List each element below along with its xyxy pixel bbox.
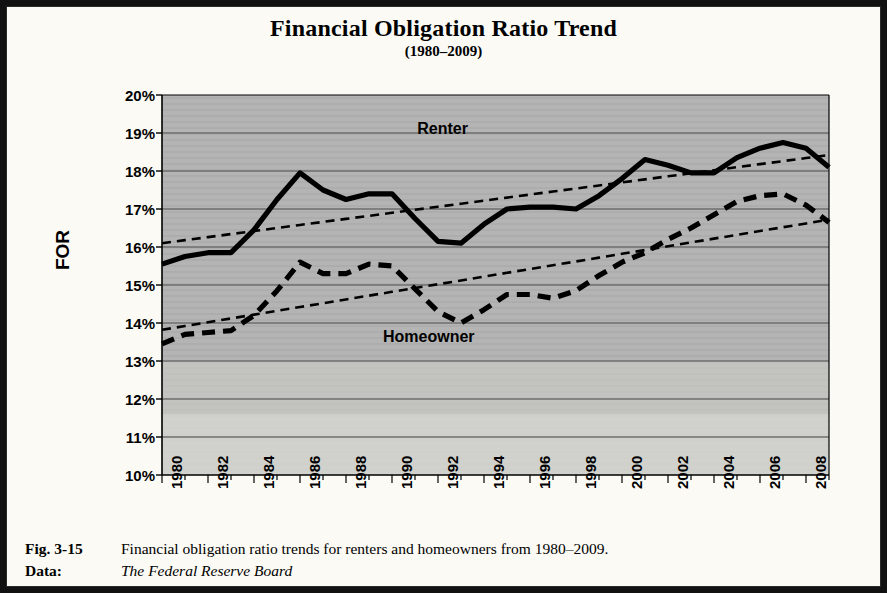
series-label-renter: Renter xyxy=(417,120,468,138)
x-axis-tick-label: 2006 xyxy=(766,456,783,489)
x-axis-tick-label: 2000 xyxy=(628,456,645,489)
caption-figure-text: Financial obligation ratio trends for re… xyxy=(121,538,862,560)
x-axis-tick-label: 2002 xyxy=(674,456,691,489)
x-axis-tick-label: 1982 xyxy=(214,456,231,489)
chart-plot-area: FOR 20%19%18%17%16%15%14%13%12%11%10% 19… xyxy=(7,7,881,547)
x-axis-tick-label: 2008 xyxy=(812,456,829,489)
figure-frame: Financial Obligation Ratio Trend (1980–2… xyxy=(0,0,887,593)
caption-figure-row: Fig. 3-15 Financial obligation ratio tre… xyxy=(25,538,862,560)
figure-caption: Fig. 3-15 Financial obligation ratio tre… xyxy=(7,538,880,582)
series-label-homeowner: Homeowner xyxy=(383,328,475,346)
x-axis-tick-label: 1984 xyxy=(260,456,277,489)
x-axis-tick-label: 1992 xyxy=(444,456,461,489)
caption-data-text: The Federal Reserve Board xyxy=(121,560,862,582)
caption-figure-key: Fig. 3-15 xyxy=(25,538,121,560)
x-axis-tick-label: 1988 xyxy=(352,456,369,489)
x-axis-tick-label: 1990 xyxy=(398,456,415,489)
x-axis-tick-label: 2004 xyxy=(720,456,737,489)
caption-data-row: Data: The Federal Reserve Board xyxy=(25,560,862,582)
x-axis-tick-labels: 1980198219841986198819901992199419961998… xyxy=(7,7,881,547)
caption-data-key: Data: xyxy=(25,560,121,582)
x-axis-tick-label: 1996 xyxy=(536,456,553,489)
x-axis-tick-label: 1998 xyxy=(582,456,599,489)
x-axis-tick-label: 1986 xyxy=(306,456,323,489)
figure-inner: Financial Obligation Ratio Trend (1980–2… xyxy=(6,6,881,587)
x-axis-tick-label: 1980 xyxy=(168,456,185,489)
x-axis-tick-label: 1994 xyxy=(490,456,507,489)
